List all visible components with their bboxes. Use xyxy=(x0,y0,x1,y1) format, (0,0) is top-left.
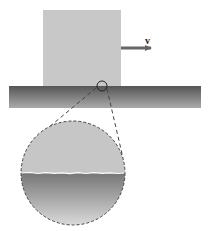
sliding-block xyxy=(43,10,121,86)
velocity-label: v xyxy=(145,35,150,46)
friction-magnification-diagram: v xyxy=(0,0,209,231)
magnified-view xyxy=(21,121,125,225)
surface-slab xyxy=(9,86,201,108)
